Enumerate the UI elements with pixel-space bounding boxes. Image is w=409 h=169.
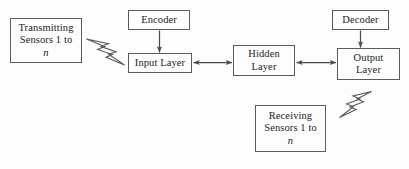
transmit-wireless-link-lightning-bolt-icon — [87, 39, 125, 65]
output-layer-line-1: Output — [354, 52, 384, 64]
node-encoder: Encoder — [128, 10, 190, 30]
hidden-layer-line-2: Layer — [252, 61, 277, 73]
node-decoder: Decoder — [332, 10, 389, 30]
receiving-sensors-line-2: Sensors 1 to — [264, 122, 317, 134]
transmitting-sensors-line-1: Transmitting — [18, 22, 73, 34]
encoder-label: Encoder — [141, 14, 177, 26]
node-output-layer: Output Layer — [337, 48, 400, 80]
input-layer-label: Input Layer — [135, 57, 185, 69]
transmitting-sensors-line-3: n — [43, 47, 48, 59]
receive-wireless-link-lightning-bolt-icon — [340, 92, 372, 118]
hidden-layer-line-1: Hidden — [248, 48, 280, 60]
node-input-layer: Input Layer — [128, 53, 192, 73]
autoencoder-sensor-diagram: Transmitting Sensors 1 to n Encoder Inpu… — [0, 0, 409, 169]
receiving-sensors-line-3: n — [288, 135, 293, 147]
output-layer-line-2: Layer — [356, 64, 381, 76]
receiving-sensors-line-1: Receiving — [269, 110, 312, 122]
node-hidden-layer: Hidden Layer — [233, 45, 295, 76]
node-receiving-sensors: Receiving Sensors 1 to n — [255, 105, 326, 152]
decoder-label: Decoder — [342, 14, 378, 26]
node-transmitting-sensors: Transmitting Sensors 1 to n — [10, 18, 82, 63]
transmitting-sensors-line-2: Sensors 1 to — [20, 34, 73, 46]
